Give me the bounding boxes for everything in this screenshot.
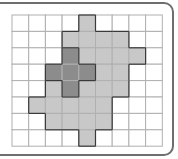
grid-cell-empty: [12, 97, 29, 113]
grid-cell-empty: [112, 113, 129, 129]
grid-cell-light: [45, 113, 62, 129]
grid-cell-empty: [29, 31, 46, 47]
grid-cell-light: [79, 15, 96, 31]
grid-cell-empty: [129, 81, 146, 97]
grid-cell-light: [129, 48, 146, 64]
grid-cell-empty: [12, 81, 29, 97]
grid-cell-light: [79, 130, 96, 146]
grid-cell-light: [29, 97, 46, 113]
grid-cell-empty: [45, 15, 62, 31]
grid-cell-empty: [29, 15, 46, 31]
grid-cell-light: [79, 113, 96, 129]
grid-cell-dark: [79, 64, 96, 80]
grid-cell-empty: [129, 64, 146, 80]
grid-cell-light: [112, 64, 129, 80]
grid-cell-empty: [146, 31, 163, 47]
grid-cell-empty: [29, 130, 46, 146]
grid-cell-empty: [29, 113, 46, 129]
grid-cell-empty: [29, 81, 46, 97]
grid-cell-light: [112, 48, 129, 64]
grid-cell-empty: [96, 15, 113, 31]
grid-cell-empty: [12, 48, 29, 64]
grid-cell-light: [79, 81, 96, 97]
grid-cell-empty: [12, 15, 29, 31]
grid-cell-empty: [129, 31, 146, 47]
grid-cell-empty: [112, 97, 129, 113]
grid-cell-empty: [112, 130, 129, 146]
grid-cell-dark: [62, 81, 79, 97]
grid-cell-empty: [12, 64, 29, 80]
grid-cell-light: [62, 97, 79, 113]
grid-cell-light: [112, 31, 129, 47]
grid-cell-empty: [146, 64, 163, 80]
grid-cell-light: [96, 113, 113, 129]
grid-cell-empty: [146, 81, 163, 97]
grid-cell-light: [96, 64, 113, 80]
grid-cell-empty: [129, 15, 146, 31]
grid-cell-dark: [62, 48, 79, 64]
grid-cell-light: [96, 31, 113, 47]
grid-cell-empty: [45, 31, 62, 47]
grid-cell-empty: [146, 113, 163, 129]
grid-cell-light: [79, 31, 96, 47]
grid-cell-light: [45, 97, 62, 113]
grid-cell-empty: [129, 97, 146, 113]
grid-cell-dark: [45, 64, 62, 80]
grid-cell-light: [45, 81, 62, 97]
grid-cell-empty: [62, 15, 79, 31]
grid-cell-empty: [12, 31, 29, 47]
grid-cell-empty: [112, 15, 129, 31]
shaded-grid: [0, 0, 178, 159]
grid-cell-light: [112, 81, 129, 97]
grid-cell-empty: [62, 130, 79, 146]
grid-cell-empty: [129, 113, 146, 129]
grid-cell-empty: [146, 130, 163, 146]
grid-cell-light: [79, 48, 96, 64]
grid-cell-empty: [12, 113, 29, 129]
grid-cell-empty: [129, 130, 146, 146]
grid-cell-empty: [146, 15, 163, 31]
grid-cell-dark: [62, 64, 79, 80]
grid-cell-light: [96, 48, 113, 64]
grid-cell-empty: [29, 64, 46, 80]
grid-cell-empty: [45, 48, 62, 64]
grid-cell-light: [62, 31, 79, 47]
grid-cell-light: [96, 97, 113, 113]
grid-cell-light: [79, 97, 96, 113]
grid-cell-empty: [29, 48, 46, 64]
grid-cell-empty: [45, 130, 62, 146]
grid-cell-empty: [12, 130, 29, 146]
grid-cell-light: [62, 113, 79, 129]
grid-cell-empty: [96, 130, 113, 146]
grid-cell-empty: [146, 48, 163, 64]
grid-cell-empty: [146, 97, 163, 113]
grid-cell-light: [96, 81, 113, 97]
